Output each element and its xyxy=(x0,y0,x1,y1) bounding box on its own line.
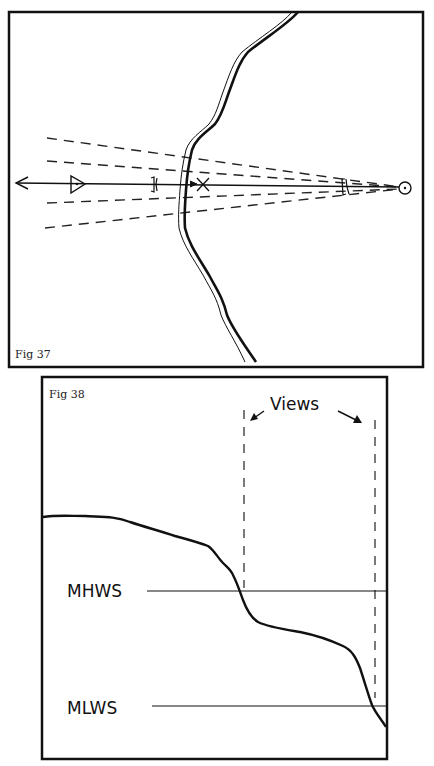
triangle-marker-icon xyxy=(71,176,85,193)
target-point-icon xyxy=(399,182,411,194)
fig38-panel: Fig 38 Views MHWS MLWS xyxy=(42,377,387,759)
fig38-label: Fig 38 xyxy=(49,388,85,401)
small-arrow-icon xyxy=(190,181,197,187)
fig37-panel: Fig 37 xyxy=(9,12,423,367)
view-arrow-left-icon xyxy=(250,411,264,421)
coastline xyxy=(179,12,298,362)
view-vertical-dashed-lines xyxy=(244,410,375,698)
mhws-label: MHWS xyxy=(67,581,122,601)
figure-page: Fig 37 Fig 38 Views MHWS MLWS xyxy=(0,0,434,766)
mlws-label: MLWS xyxy=(67,698,117,718)
views-annotation: Views xyxy=(270,394,319,414)
transit-line xyxy=(16,183,399,187)
fig37-label: Fig 37 xyxy=(15,348,51,361)
view-arrow-right-icon xyxy=(338,411,362,423)
shore-profile-curve xyxy=(43,516,386,727)
